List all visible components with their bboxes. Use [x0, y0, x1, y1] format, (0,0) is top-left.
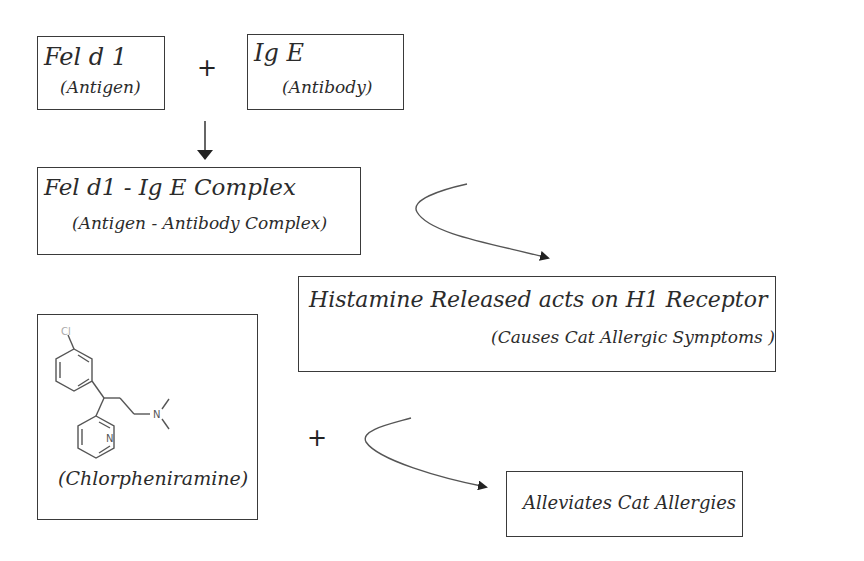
curved-arrow-icon — [416, 184, 548, 258]
curved-arrow-2-icon — [365, 418, 486, 487]
arrows-layer — [0, 0, 864, 561]
